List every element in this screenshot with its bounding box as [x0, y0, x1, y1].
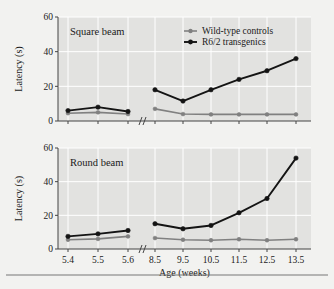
data-point-10.5 [209, 238, 213, 242]
data-point-5.6 [126, 109, 130, 113]
y-axis: 0204060 [44, 143, 59, 254]
panel-title: Square beam [70, 26, 125, 37]
data-point-12.5 [265, 113, 269, 117]
panel-title: Round beam [70, 157, 123, 168]
data-point-8.5 [153, 88, 157, 92]
x-tick-label-5.4: 5.4 [62, 255, 74, 265]
legend-marker-wild-type-controls [188, 29, 192, 33]
x-tick-label-5.6: 5.6 [122, 255, 134, 265]
data-point-11.5 [237, 77, 241, 81]
data-point-10.5 [209, 88, 213, 92]
y-tick-label-0: 0 [48, 116, 53, 126]
data-point-5.6 [126, 228, 130, 232]
legend-label-r6-2-transgenics: R6/2 transgenics [202, 37, 266, 47]
data-point-5.5 [96, 237, 100, 241]
data-point-8.5 [153, 107, 157, 111]
data-point-5.6 [126, 234, 130, 238]
data-point-5.5 [96, 110, 100, 114]
y-tick-label-40: 40 [44, 177, 54, 187]
data-point-10.5 [209, 113, 213, 117]
data-point-9.5 [181, 238, 185, 242]
x-axis-title: Age (weeks) [159, 267, 210, 279]
panel-round-beam: 0204060Round beamLatency (s) [13, 143, 311, 254]
data-point-9.5 [181, 99, 185, 103]
x-tick-labels: 5.45.55.68.59.510.511.512.513.5 [62, 255, 305, 265]
data-point-5.5 [96, 232, 100, 236]
y-tick-label-60: 60 [44, 12, 54, 22]
data-point-5.4 [66, 234, 70, 238]
data-point-11.5 [237, 211, 241, 215]
data-point-11.5 [237, 113, 241, 117]
data-point-9.5 [181, 227, 185, 231]
data-point-8.5 [153, 222, 157, 226]
data-point-8.5 [153, 236, 157, 240]
data-point-10.5 [209, 223, 213, 227]
y-tick-label-0: 0 [48, 244, 53, 254]
data-point-13.5 [294, 156, 298, 160]
data-point-13.5 [294, 237, 298, 241]
x-tick-label-11.5: 11.5 [231, 255, 248, 265]
x-tick-label-10.5: 10.5 [203, 255, 220, 265]
x-tick-label-13.5: 13.5 [288, 255, 305, 265]
data-point-11.5 [237, 237, 241, 241]
y-axis-title: Latency (s) [13, 46, 25, 91]
x-tick-label-9.5: 9.5 [177, 255, 189, 265]
x-tick-label-8.5: 8.5 [149, 255, 161, 265]
legend-label-wild-type-controls: Wild-type controls [202, 26, 273, 36]
data-point-9.5 [181, 112, 185, 116]
dual-panel-line-chart: 0204060Square beamLatency (s)0204060Roun… [0, 0, 334, 289]
y-axis-title: Latency (s) [13, 176, 25, 221]
x-tick-label-12.5: 12.5 [259, 255, 276, 265]
x-tick-label-5.5: 5.5 [92, 255, 104, 265]
y-tick-label-60: 60 [44, 143, 54, 153]
data-point-5.4 [66, 108, 70, 112]
data-point-12.5 [265, 238, 269, 242]
data-point-13.5 [294, 56, 298, 60]
data-point-12.5 [265, 196, 269, 200]
figure-container: 0204060Square beamLatency (s)0204060Roun… [0, 0, 334, 289]
data-point-13.5 [294, 113, 298, 117]
data-point-5.5 [96, 105, 100, 109]
data-point-12.5 [265, 69, 269, 73]
y-tick-label-40: 40 [44, 47, 54, 57]
y-axis: 0204060 [44, 12, 59, 126]
y-tick-label-20: 20 [44, 82, 54, 92]
y-tick-label-20: 20 [44, 211, 54, 221]
legend-marker-r6-2-transgenics [188, 40, 193, 45]
